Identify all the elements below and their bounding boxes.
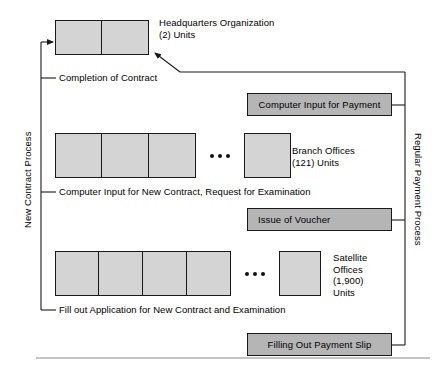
org-caption-branch-offices: Branch Offices (121) Units [292, 145, 355, 168]
ellipsis-branch-offices [196, 133, 244, 178]
process-flow-diagram: New Contract Process Regular Payment Pro… [0, 0, 448, 381]
step-label-fill-out-application: Fill out Application for New Contract an… [59, 304, 286, 316]
process-box-label: Filling Out Payment Slip [268, 339, 372, 350]
regular-payment-process-spine [392, 72, 405, 345]
ellipsis-satellite-offices [231, 251, 279, 296]
org-unit-cell [99, 251, 143, 296]
org-unit-cell-trailing [244, 133, 291, 178]
unit-group-headquarters [55, 20, 149, 55]
unit-group-branch-offices [55, 133, 196, 178]
process-box-computer-input-for-payment[interactable]: Computer Input for Payment [247, 93, 392, 116]
org-unit-cell [187, 251, 231, 296]
org-row-branch-offices [55, 133, 291, 178]
right-axis-label: Regular Payment Process [413, 133, 424, 246]
org-row-headquarters [55, 20, 149, 55]
step-label-computer-input-new-contract: Computer Input for New Contract, Request… [59, 186, 311, 198]
process-box-label: Computer Input for Payment [259, 99, 381, 110]
process-box-issue-of-voucher[interactable]: Issue of Voucher [247, 208, 392, 231]
completion-return-arrow [155, 53, 405, 72]
org-unit-cell [55, 133, 102, 178]
org-unit-cell [55, 20, 102, 55]
left-axis-label: New Contract Process [22, 131, 33, 228]
org-row-satellite-offices [55, 251, 321, 296]
org-unit-cell [149, 133, 196, 178]
org-caption-satellite-offices: Satellite Offices (1,900) Units [333, 252, 367, 298]
org-caption-headquarters: Headquarters Organization (2) Units [159, 17, 274, 40]
process-box-label: Issue of Voucher [258, 214, 330, 225]
org-unit-cell [102, 133, 149, 178]
new-contract-process-spine [41, 42, 56, 310]
process-box-filling-out-payment-slip[interactable]: Filling Out Payment Slip [247, 333, 392, 356]
org-unit-cell [55, 251, 99, 296]
unit-group-satellite-offices [55, 251, 231, 296]
step-label-completion-of-contract: Completion of Contract [59, 72, 157, 84]
org-unit-cell [143, 251, 187, 296]
org-unit-cell [102, 20, 149, 55]
org-unit-cell-trailing [279, 251, 321, 296]
